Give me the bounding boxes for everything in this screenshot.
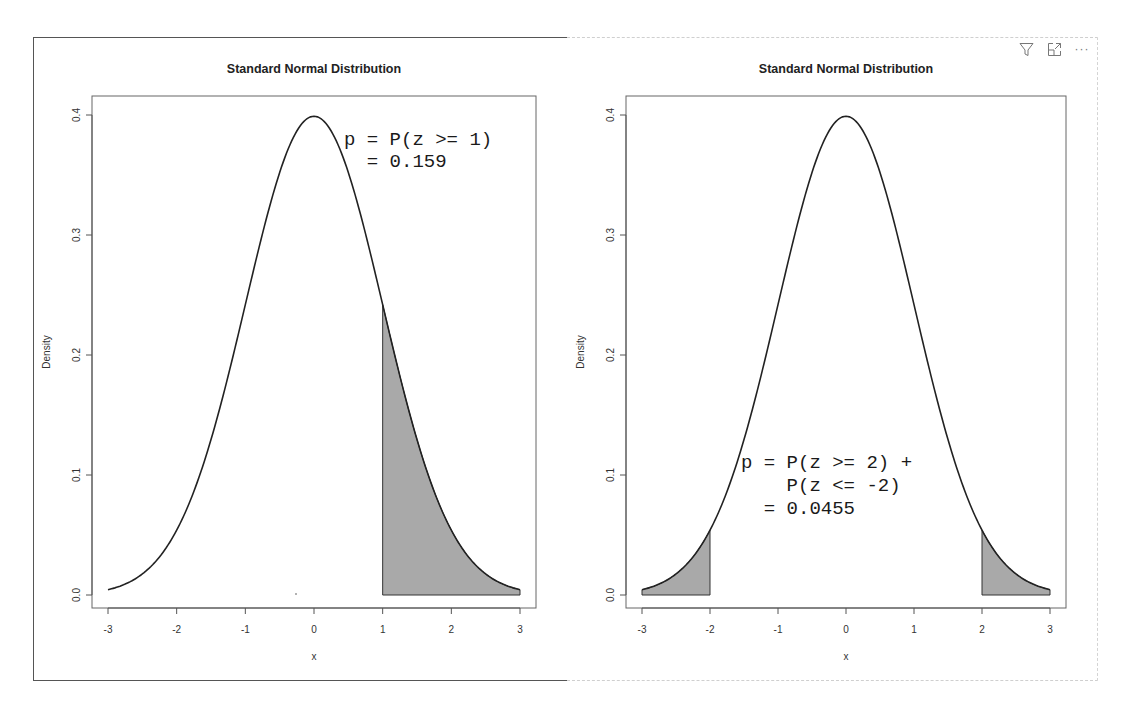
x-axis-label: x — [844, 651, 849, 662]
x-tick-label: 2 — [979, 624, 985, 635]
x-tick-label: -1 — [774, 624, 783, 635]
y-tick-label: 0.4 — [605, 108, 616, 122]
y-tick-label: 0.2 — [605, 348, 616, 362]
x-tick-label: 1 — [911, 624, 917, 635]
p-value-annotation-line-1: p = P(z >= 2) + — [741, 452, 912, 474]
shaded-tail-regions — [642, 530, 1050, 595]
more-options-icon: ··· — [1075, 42, 1090, 56]
p-value-annotation-line-2: P(z <= -2) — [741, 475, 901, 497]
y-axis-label: Density — [575, 335, 586, 368]
plot-frame — [626, 96, 1066, 608]
x-tick-label: -2 — [706, 624, 715, 635]
focus-mode-button[interactable] — [1046, 41, 1062, 57]
y-axis: 0.00.10.20.30.4 — [605, 108, 626, 602]
x-tick-label: -3 — [638, 624, 647, 635]
more-options-button[interactable]: ··· — [1074, 41, 1090, 57]
focus-mode-icon — [1047, 42, 1062, 57]
y-tick-label: 0.1 — [605, 468, 616, 482]
chart-title: Standard Normal Distribution — [759, 62, 933, 76]
visual-header: ··· — [1018, 41, 1090, 57]
x-axis: -3-2-10123 — [638, 608, 1054, 635]
filter-button[interactable] — [1018, 41, 1034, 57]
chart-right: Standard Normal Distribution -3-2-10123 … — [0, 0, 1130, 716]
y-tick-label: 0.3 — [605, 228, 616, 242]
x-tick-label: 3 — [1047, 624, 1053, 635]
filter-icon — [1019, 42, 1034, 57]
p-value-annotation-line-3: = 0.0455 — [741, 498, 855, 520]
x-tick-label: 0 — [843, 624, 849, 635]
y-tick-label: 0.0 — [605, 588, 616, 602]
